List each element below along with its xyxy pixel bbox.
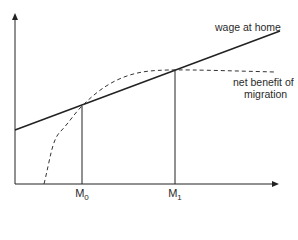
wage-at-home-label: wage at home (215, 21, 281, 33)
net-benefit-label-line1: net benefit of (233, 76, 294, 88)
net-benefit-label-line2: migration (244, 88, 287, 100)
m0-label: M0 (75, 187, 89, 202)
m1-label: M1 (168, 187, 182, 202)
